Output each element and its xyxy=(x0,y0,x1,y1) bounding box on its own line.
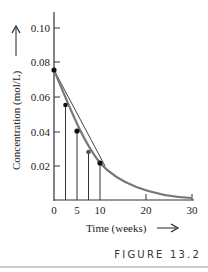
svg-text:10: 10 xyxy=(95,204,107,216)
data-point xyxy=(51,67,56,72)
tangent-line xyxy=(54,70,105,166)
y-ticks xyxy=(54,28,60,166)
svg-text:0.02: 0.02 xyxy=(31,160,50,172)
figure-caption: FIGURE 13.2 xyxy=(114,249,201,260)
svg-text:20: 20 xyxy=(141,204,153,216)
svg-text:0: 0 xyxy=(51,204,57,216)
data-point xyxy=(63,103,68,108)
svg-text:30: 30 xyxy=(187,204,199,216)
concentration-time-chart: 0.10 0.08 0.06 0.04 0.02 0 5 10 20 30 Co… xyxy=(0,0,208,272)
y-tick-labels: 0.10 0.08 0.06 0.04 0.02 xyxy=(31,22,51,172)
svg-text:0.10: 0.10 xyxy=(31,22,51,34)
decay-curve xyxy=(54,70,192,198)
y-axis-label-group: Concentration (mol/L) xyxy=(10,26,23,170)
svg-text:0.08: 0.08 xyxy=(31,56,51,68)
data-point xyxy=(97,160,102,165)
x-axis-label-group: Time (weeks) xyxy=(86,222,178,235)
data-point xyxy=(86,150,91,155)
svg-text:0.06: 0.06 xyxy=(31,91,51,103)
vertical-drop-lines xyxy=(66,106,101,200)
y-axis-label: Concentration (mol/L) xyxy=(10,70,23,170)
x-axis-label: Time (weeks) xyxy=(86,222,147,235)
data-point xyxy=(74,128,79,133)
svg-text:0.04: 0.04 xyxy=(31,126,51,138)
x-tick-labels: 0 5 10 20 30 xyxy=(51,204,198,216)
svg-text:5: 5 xyxy=(74,204,80,216)
